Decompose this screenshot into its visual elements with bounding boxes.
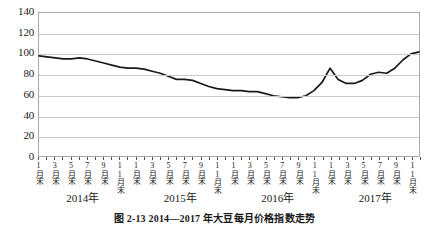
x-tick-label: 11月末 [407, 161, 417, 194]
x-tick-label: 5月末 [358, 161, 368, 185]
x-tick-label: 9月末 [196, 161, 206, 185]
x-tick [46, 157, 47, 160]
x-tick [266, 157, 267, 160]
figure-root: 020406080100120140 1月末3月末5月末7月末9月末11月末1月… [0, 0, 429, 226]
x-tick-label: 7月末 [374, 161, 384, 185]
y-tick-label-140: 140 [0, 6, 34, 17]
x-tick-label: 7月末 [277, 161, 287, 185]
y-tick-label-60: 60 [0, 89, 34, 100]
x-axis-labels: 1月末3月末5月末7月末9月末11月末1月末3月末5月末7月末9月末11月末1月… [38, 161, 420, 191]
x-tick-label: 11月末 [212, 161, 222, 194]
gridline-60 [39, 96, 419, 97]
x-tick-label: 5月末 [261, 161, 271, 185]
x-tick [184, 157, 185, 160]
x-tick [241, 157, 242, 160]
x-tick [298, 157, 299, 160]
x-tick [152, 157, 153, 160]
x-tick-label: 3月末 [147, 161, 157, 185]
x-tick [87, 157, 88, 160]
gridline-20 [39, 137, 419, 138]
x-tick [176, 157, 177, 160]
x-tick [363, 157, 364, 160]
gridline-40 [39, 117, 419, 118]
x-tick-label: 5月末 [66, 161, 76, 185]
x-tick [144, 157, 145, 160]
y-tick-label-0: 0 [0, 151, 34, 162]
figure-caption: 图 2-13 2014—2017 年大豆每月价格指数走势 [0, 213, 429, 225]
x-tick [54, 157, 55, 160]
x-tick [71, 157, 72, 160]
x-tick-label: 7月末 [82, 161, 92, 185]
x-tick [371, 157, 372, 160]
x-tick [379, 157, 380, 160]
x-tick [225, 157, 226, 160]
x-tick-label: 3月末 [342, 161, 352, 185]
x-tick [38, 157, 39, 160]
x-tick [192, 157, 193, 160]
x-tick [412, 157, 413, 160]
x-tick-label: 1月末 [33, 161, 43, 185]
year-label-2014年: 2014年 [38, 192, 128, 204]
x-tick [119, 157, 120, 160]
plot-area [38, 12, 420, 157]
x-tick-label: 5月末 [163, 161, 173, 185]
x-tick [347, 157, 348, 160]
x-tick [209, 157, 210, 160]
x-tick [420, 157, 421, 160]
x-tick [62, 157, 63, 160]
x-tick [201, 157, 202, 160]
year-label-2015年: 2015年 [135, 192, 225, 204]
x-tick-label: 11月末 [114, 161, 124, 194]
x-tick-label: 1月末 [131, 161, 141, 185]
x-tick [233, 157, 234, 160]
x-tick-label: 3月末 [244, 161, 254, 185]
x-tick [355, 157, 356, 160]
gridline-120 [39, 34, 419, 35]
gridline-100 [39, 54, 419, 55]
x-tick [160, 157, 161, 160]
x-tick-label: 7月末 [179, 161, 189, 185]
y-tick-label-40: 40 [0, 110, 34, 121]
x-tick [127, 157, 128, 160]
y-tick-label-80: 80 [0, 68, 34, 79]
x-tick [396, 157, 397, 160]
x-tick [339, 157, 340, 160]
x-tick [323, 157, 324, 160]
year-label-2016年: 2016年 [233, 192, 323, 204]
x-tick [168, 157, 169, 160]
x-tick-label: 1月末 [326, 161, 336, 185]
x-tick-label: 1月末 [228, 161, 238, 185]
y-tick-label-20: 20 [0, 130, 34, 141]
year-group-labels: 2014年2015年2016年2017年 [38, 192, 420, 206]
year-label-2017年: 2017年 [330, 192, 420, 204]
x-tick [306, 157, 307, 160]
x-tick [282, 157, 283, 160]
x-tick [95, 157, 96, 160]
x-tick-label: 11月末 [309, 161, 319, 194]
x-tick [136, 157, 137, 160]
x-tick [111, 157, 112, 160]
y-axis: 020406080100120140 [0, 0, 34, 226]
x-tick [331, 157, 332, 160]
x-tick [314, 157, 315, 160]
x-tick [79, 157, 80, 160]
x-tick [103, 157, 104, 160]
x-tick [404, 157, 405, 160]
x-tick-label: 9月末 [98, 161, 108, 185]
x-tick [290, 157, 291, 160]
y-tick-label-120: 120 [0, 27, 34, 38]
x-tick [217, 157, 218, 160]
x-tick-label: 3月末 [49, 161, 59, 185]
x-tick-label: 9月末 [391, 161, 401, 185]
y-tick-label-100: 100 [0, 47, 34, 58]
x-tick [388, 157, 389, 160]
gridline-80 [39, 75, 419, 76]
x-tick [249, 157, 250, 160]
x-tick [257, 157, 258, 160]
x-tick [274, 157, 275, 160]
x-tick-label: 9月末 [293, 161, 303, 185]
